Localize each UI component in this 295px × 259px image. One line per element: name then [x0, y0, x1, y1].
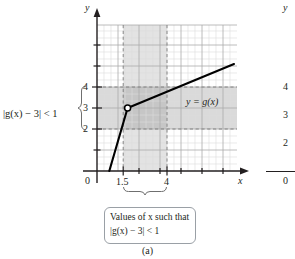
y-tick-label-4: 4 — [83, 82, 88, 92]
neighbor-tick-label-3: 3 — [283, 109, 288, 120]
y-axis-label: y — [85, 3, 89, 13]
neighbor-x-axis-fragment — [266, 171, 295, 172]
curve-label: y = g(x) — [186, 96, 218, 107]
y-tick-label-2: 2 — [83, 124, 88, 134]
neighbor-origin-label: 0 — [283, 175, 288, 186]
y-axis-arrow — [94, 8, 101, 17]
figure-sub-label: (a) — [0, 245, 295, 256]
x-axis-label: x — [238, 176, 242, 186]
origin-label: 0 — [85, 176, 90, 186]
neighbor-tick-label-2: 2 — [283, 137, 288, 148]
x-tick-label-4: 4 — [164, 177, 169, 187]
open-point-marker — [125, 105, 131, 111]
neighbor-tick-label-4: 4 — [283, 81, 288, 92]
x-tick-label-1point5: 1.5 — [116, 177, 129, 187]
bottom-brace — [124, 187, 167, 195]
caption-line-1: Values of x such that — [110, 211, 190, 225]
neighbor-y-axis-label: y — [283, 2, 287, 13]
left-inequality-label: |g(x) − 3| < 1 — [3, 108, 58, 119]
caption-box: Values of x such that |g(x) − 3| < 1 — [104, 207, 196, 244]
y-tick-label-3: 3 — [83, 103, 88, 113]
x-axis-arrow — [240, 168, 249, 175]
caption-line-2: |g(x) − 3| < 1 — [110, 225, 190, 239]
